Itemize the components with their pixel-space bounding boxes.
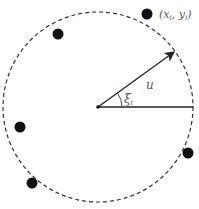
data-points: [15, 9, 194, 189]
data-point: [183, 148, 194, 159]
vector-label: u: [146, 78, 154, 92]
center-point: [96, 105, 100, 109]
vector-u-arrow: [98, 52, 174, 107]
data-point: [27, 178, 38, 189]
angle-label: ξi: [124, 92, 133, 107]
diagram-canvas: (xi, yi) u ξi: [0, 0, 199, 209]
point-label: (xi, yi): [159, 8, 192, 22]
data-point: [142, 9, 153, 20]
data-point: [15, 122, 26, 133]
angle-arc: [118, 93, 123, 107]
data-point: [53, 29, 64, 40]
